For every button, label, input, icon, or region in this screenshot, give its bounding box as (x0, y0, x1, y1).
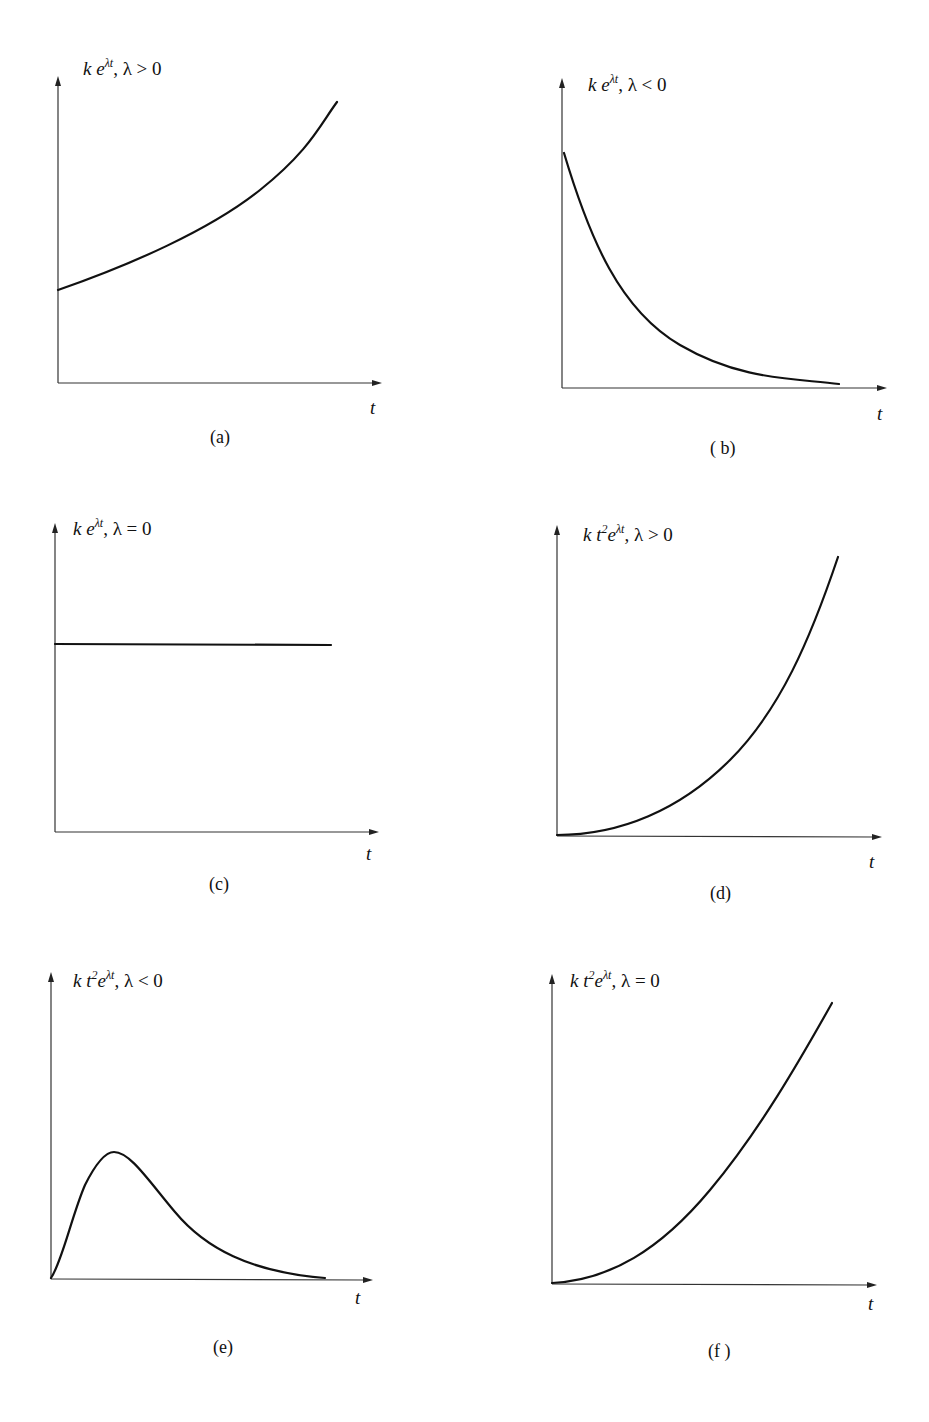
caption-a: (a) (210, 427, 230, 448)
caption-c: (c) (209, 874, 229, 895)
plots-canvas (0, 0, 929, 1422)
ylabel-c: k eλt, λ = 0 (73, 518, 152, 540)
ylabel-b: k eλt, λ < 0 (588, 74, 667, 96)
ylabel-a: k eλt, λ > 0 (83, 58, 162, 80)
curve-exp-growth (58, 102, 337, 290)
y-axis-arrow-icon (549, 974, 555, 984)
x-axis-arrow-icon (369, 829, 379, 835)
x-axis (557, 836, 874, 837)
xlabel-c: t (366, 843, 371, 865)
y-axis-arrow-icon (52, 523, 58, 533)
caption-b: ( b) (710, 438, 736, 459)
x-axis (51, 1279, 364, 1280)
panel-d (554, 525, 882, 840)
x-axis-arrow-icon (877, 385, 887, 391)
x-axis-arrow-icon (867, 1282, 877, 1288)
xlabel-b: t (877, 403, 882, 425)
y-axis-arrow-icon (55, 76, 61, 86)
xlabel-e: t (355, 1287, 360, 1309)
y-axis-arrow-icon (559, 78, 565, 88)
caption-d: (d) (710, 883, 731, 904)
figure-grid: k eλt, λ > 0 t (a) k eλt, λ < 0 t ( b) k… (0, 0, 929, 1422)
curve-constant (55, 644, 331, 645)
caption-f: (f ) (708, 1341, 730, 1362)
panel-c (52, 523, 379, 835)
ylabel-e: k t2eλt, λ < 0 (73, 970, 163, 992)
x-axis (552, 1284, 868, 1285)
curve-t2-decay (51, 1152, 325, 1278)
y-axis-arrow-icon (554, 525, 560, 535)
panel-a (55, 76, 382, 386)
curve-t2-parabola (552, 1003, 832, 1283)
y-axis-arrow-icon (48, 972, 54, 982)
x-axis-arrow-icon (363, 1277, 373, 1283)
ylabel-f: k t2eλt, λ = 0 (570, 970, 660, 992)
xlabel-f: t (868, 1293, 873, 1315)
x-axis-arrow-icon (872, 834, 882, 840)
curve-exp-decay (564, 153, 839, 384)
curve-t2-growth (557, 557, 838, 835)
xlabel-d: t (869, 851, 874, 873)
panel-f (549, 974, 877, 1288)
panel-e (48, 972, 373, 1283)
caption-e: (e) (213, 1337, 233, 1358)
x-axis-arrow-icon (372, 380, 382, 386)
panel-b (559, 78, 887, 391)
ylabel-d: k t2eλt, λ > 0 (583, 524, 673, 546)
xlabel-a: t (370, 397, 375, 419)
